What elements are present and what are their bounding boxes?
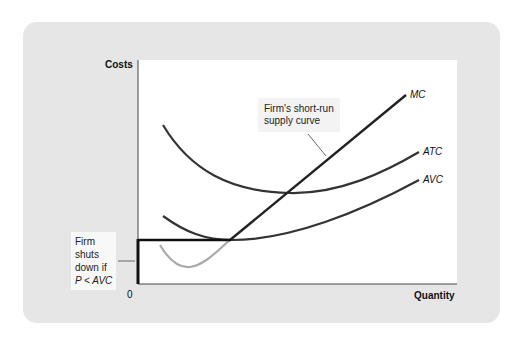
supply-callout-line-2: supply curve [264,115,334,127]
x-axis-label: Quantity [414,290,455,302]
atc-curve [163,125,419,193]
shutdown-line-4: P < AVC [75,274,112,287]
supply-callout-leader [308,134,326,156]
supply-curve-callout: Firm's short-run supply curve [258,98,340,132]
y-axis-label: Costs [105,59,133,71]
origin-label: 0 [127,289,133,301]
avc-label: AVC [423,174,443,186]
mc-curve-below-avc [160,240,230,267]
shutdown-callout: Firm shuts down if P < AVC [71,232,116,290]
atc-label: ATC [423,146,442,158]
supply-callout-line-1: Firm's short-run [264,103,334,115]
shutdown-line-1: Firm [75,235,112,248]
shutdown-line-2: shuts [75,248,112,261]
mc-label: MC [410,89,426,101]
shutdown-line-3: down if [75,261,112,274]
